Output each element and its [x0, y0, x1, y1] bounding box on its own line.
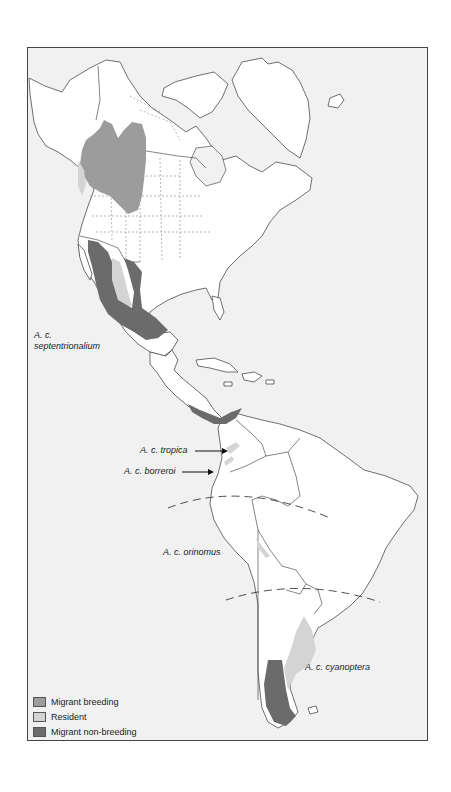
range-map [0, 0, 451, 792]
legend-swatch-resident [33, 712, 46, 722]
greenland [232, 58, 310, 158]
south-america [210, 412, 418, 728]
label-tropica: A. c. tropica [140, 445, 188, 456]
jamaica [224, 382, 232, 386]
falkland-islands [308, 706, 318, 714]
legend-item-migrant-non-breeding: Migrant non-breeding [33, 724, 137, 739]
label-orinomus: A. c. orinomus [163, 547, 221, 558]
legend-swatch-migrant-breeding [33, 697, 46, 707]
cuba [196, 358, 238, 372]
legend-item-migrant-breeding: Migrant breeding [33, 694, 137, 709]
legend-item-resident: Resident [33, 709, 137, 724]
hispaniola [242, 372, 262, 382]
legend-label: Migrant breeding [51, 697, 119, 707]
label-septentrionalium-line2: septentrionalium [34, 341, 100, 352]
legend-swatch-migrant-non-breeding [33, 727, 46, 737]
label-cyanoptera: A. c. cyanoptera [305, 662, 370, 673]
legend: Migrant breeding Resident Migrant non-br… [33, 694, 137, 739]
label-septentrionalium-line1: A. c. [34, 330, 100, 341]
legend-label: Migrant non-breeding [51, 727, 137, 737]
puerto-rico [266, 380, 274, 384]
arctic-islands [162, 72, 228, 118]
legend-label: Resident [51, 712, 87, 722]
label-septentrionalium: A. c. septentrionalium [34, 330, 100, 352]
borreroi-arrowhead [208, 469, 214, 475]
iceland [328, 94, 344, 108]
florida [212, 296, 224, 320]
label-borreroi: A. c. borreroi [124, 466, 176, 477]
